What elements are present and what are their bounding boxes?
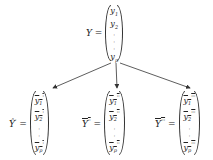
ellipsis-dot: ·: [188, 125, 190, 132]
vector-y: Y = y1 y2 · · · yp: [86, 5, 123, 61]
vector-y-column: y1 y2 · · · yp: [105, 5, 123, 61]
entry-y2-double-prime: y2'': [109, 108, 119, 124]
entry-y2-triple-prime: y2''': [184, 108, 196, 124]
ellipsis-dot: ·: [188, 132, 190, 139]
arrow-to-left: [53, 63, 111, 88]
vector-y-triple-prime-column: y1''' y2''' · · yp''': [179, 91, 201, 155]
entry-y1-triple-prime: y1''': [184, 92, 196, 108]
vector-y-double-prime: Y'' = y1'' y2'' · · yp'': [82, 91, 125, 155]
vector-y-prime-column: y1' y2' · · yp': [30, 91, 49, 155]
vector-y-triple-prime: Y''' = y1''' y2''' · · yp''': [155, 91, 200, 155]
entry-y2: y2: [110, 19, 118, 32]
entry-y1: y1: [110, 6, 118, 19]
vector-y-double-prime-label: Y'' =: [82, 118, 101, 129]
arrow-to-middle: [116, 63, 117, 88]
entry-yp-prime: yp': [35, 139, 44, 155]
ellipsis-dot: ·: [38, 132, 40, 139]
vector-y-double-prime-column: y1'' y2'' · · yp'': [104, 91, 124, 155]
vector-y-prime-label: Ŷ' =: [9, 118, 27, 129]
entry-y2-prime: y2': [35, 108, 44, 124]
ellipsis-dot: ·: [113, 45, 115, 52]
vector-y-label: Y =: [86, 28, 102, 38]
entry-yp-triple-prime: yp''': [184, 139, 196, 155]
entry-yp: yp: [110, 52, 118, 65]
entry-y1-prime: y1': [35, 92, 44, 108]
ellipsis-dot: ·: [113, 132, 115, 139]
vector-y-prime: Ŷ' = y1' y2' · · yp': [9, 91, 49, 155]
ellipsis-dot: ·: [38, 125, 40, 132]
ellipsis-dot: ·: [113, 125, 115, 132]
ellipsis-dot: ·: [113, 38, 115, 45]
ellipsis-dot: ·: [113, 31, 115, 38]
entry-y1-double-prime: y1'': [109, 92, 119, 108]
arrow-to-right: [120, 63, 190, 88]
entry-yp-double-prime: yp'': [109, 139, 119, 155]
vector-y-triple-prime-label: Y''' =: [155, 118, 176, 129]
